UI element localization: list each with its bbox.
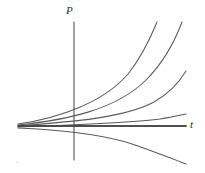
- slow-growth-curve: [18, 114, 186, 127]
- solution-curves-group: [18, 22, 186, 164]
- moderate-growth-curve: [18, 71, 186, 126]
- exponential-growth-figure: P t: [0, 0, 205, 173]
- scan-speck-artifact: [16, 161, 19, 164]
- horizontal-axis-label: t: [190, 119, 193, 130]
- decay-curve: [18, 128, 186, 164]
- vertical-axis-label: P: [66, 5, 73, 16]
- plot-canvas: [0, 0, 205, 173]
- axes-group: [18, 22, 186, 160]
- fast-growth-curve: [18, 22, 182, 125]
- steepest-growth-curve: [18, 22, 157, 124]
